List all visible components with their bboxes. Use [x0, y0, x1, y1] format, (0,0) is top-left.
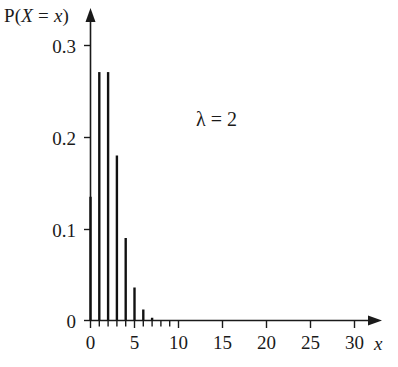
- x-axis-arrow-icon: [368, 316, 382, 326]
- y-tick-label-0.1: 0.1: [24, 221, 76, 240]
- y-axis-label-p: P(: [4, 5, 21, 26]
- y-tick-label-0.3: 0.3: [24, 37, 76, 56]
- y-axis-label-x: x: [54, 5, 63, 26]
- x-tick-label-5: 5: [114, 333, 155, 352]
- x-tick-label-20: 20: [246, 333, 287, 352]
- x-tick-label-15: 15: [202, 333, 243, 352]
- x-axis-ticks-major: [91, 321, 355, 329]
- y-axis-label-equals: =: [33, 5, 54, 26]
- x-tick-label-0: 0: [70, 333, 111, 352]
- x-tick-label-10: 10: [158, 333, 199, 352]
- poisson-pmf-chart: P(X = x) 0 0.1 0.2 0.3 0 5 10 15 20 25 3…: [0, 0, 398, 367]
- y-tick-label-0.2: 0.2: [24, 129, 76, 148]
- x-tick-label-30: 30: [334, 333, 375, 352]
- y-axis-label-close: ): [63, 5, 70, 26]
- y-tick-label-0: 0: [24, 312, 76, 331]
- y-axis-arrow-icon: [86, 8, 96, 22]
- x-axis-label: x: [374, 334, 382, 353]
- lambda-annotation: λ = 2: [196, 109, 237, 129]
- pmf-bars: [91, 72, 153, 320]
- y-axis-label: P(X = x): [4, 6, 69, 25]
- y-axis-label-X: X: [21, 5, 33, 26]
- x-tick-label-25: 25: [290, 333, 331, 352]
